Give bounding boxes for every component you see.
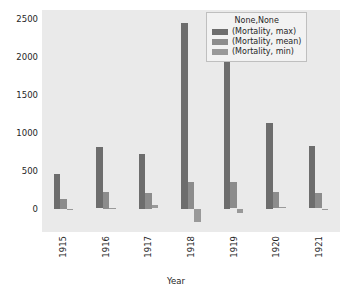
y-axis-tick-label: 2000 [0, 52, 38, 62]
legend-swatch-icon [212, 39, 228, 45]
legend-entry: (Mortality, min) [212, 47, 301, 56]
bar-1918-mean [188, 182, 195, 209]
bar-1921-min [322, 209, 329, 210]
bar-1920-mean [273, 192, 280, 209]
chart-figure: 05001000150020002500 1915191619171918191… [0, 0, 352, 295]
x-axis-tick-label: 1916 [106, 214, 116, 236]
legend-title: None,None [212, 16, 301, 25]
legend-label: (Mortality, max) [232, 27, 296, 36]
legend-swatch-icon [212, 29, 228, 35]
bar-1917-min [152, 205, 159, 208]
x-axis-tick-label: 1921 [319, 214, 329, 236]
x-axis-tick-label: 1919 [234, 214, 244, 236]
y-axis-tick-label: 500 [0, 166, 38, 176]
y-axis-tick-label: 2500 [0, 14, 38, 24]
legend-label: (Mortality, mean) [232, 37, 301, 46]
legend-label: (Mortality, min) [232, 47, 294, 56]
bar-1916-min [109, 208, 116, 209]
bar-1919-min [237, 209, 244, 214]
bar-1916-mean [103, 192, 110, 208]
bar-1915-mean [60, 199, 67, 209]
y-axis-tick-label: 1000 [0, 128, 38, 138]
x-axis-tick-label: 1920 [276, 214, 286, 236]
bar-1921-mean [315, 193, 322, 208]
legend-entry: (Mortality, mean) [212, 37, 301, 46]
y-axis-tick-label: 0 [0, 204, 38, 214]
y-axis-tick-label: 1500 [0, 90, 38, 100]
legend-swatch-icon [212, 49, 228, 55]
x-axis-tick-label: 1915 [63, 214, 73, 236]
bar-1915-min [67, 209, 74, 210]
legend: None,None (Mortality, max)(Mortality, me… [206, 12, 307, 62]
x-axis-tick-label: 1917 [148, 214, 158, 236]
legend-entry: (Mortality, max) [212, 27, 301, 36]
bar-1920-min [279, 207, 286, 209]
x-axis-label: Year [0, 276, 352, 286]
x-axis-tick-label: 1918 [191, 214, 201, 236]
legend-entries: (Mortality, max)(Mortality, mean)(Mortal… [212, 27, 301, 56]
bar-1919-mean [230, 182, 237, 208]
